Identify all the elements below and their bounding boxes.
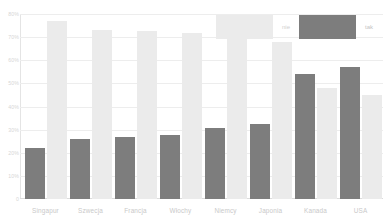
legend-swatch-nie-icon: [216, 15, 273, 39]
bar-group: [248, 14, 293, 199]
y-axis-tick-label: 30%: [1, 127, 19, 133]
x-axis: SingapurSzwecjaFrancjaWłochyNiemcyJaponi…: [20, 207, 383, 221]
bar-nie[interactable]: [182, 33, 202, 200]
legend: nie tak: [216, 15, 382, 39]
bar-tak[interactable]: [70, 139, 90, 199]
bar-tak[interactable]: [295, 74, 315, 199]
y-axis-tick-label: 0: [1, 196, 19, 202]
bar-nie[interactable]: [272, 42, 292, 199]
legend-label-nie: nie: [273, 24, 299, 30]
x-axis-tick-label: Niemcy: [203, 207, 248, 214]
bar-group: [113, 14, 158, 199]
y-axis-tick-label: 50%: [1, 80, 19, 86]
legend-label-tak: tak: [356, 24, 382, 30]
plot-area: [20, 14, 383, 199]
y-axis-tick-label: 20%: [1, 150, 19, 156]
y-axis-tick-label: 10%: [1, 173, 19, 179]
bar-chart: 80%70%60%50%40%30%20%10%0 nie tak Singap…: [0, 0, 384, 224]
bar-tak[interactable]: [115, 137, 135, 199]
legend-item-tak[interactable]: tak: [299, 15, 382, 39]
x-axis-tick-label: Szwecja: [68, 207, 113, 214]
bar-nie[interactable]: [317, 88, 337, 199]
y-axis-tick-label: 40%: [1, 104, 19, 110]
bar-tak[interactable]: [340, 67, 360, 199]
bar-tak[interactable]: [205, 128, 225, 199]
x-axis-tick-label: Francja: [113, 207, 158, 214]
bar-group: [23, 14, 68, 199]
x-axis-tick-label: Japonia: [248, 207, 293, 214]
bar-nie[interactable]: [137, 31, 157, 199]
bar-tak[interactable]: [160, 135, 180, 199]
bar-nie[interactable]: [362, 95, 382, 199]
x-axis-tick-label: USA: [338, 207, 383, 214]
bar-nie[interactable]: [227, 21, 247, 199]
bar-group: [158, 14, 203, 199]
x-axis-tick-label: Kanada: [293, 207, 338, 214]
y-axis: 80%70%60%50%40%30%20%10%0: [0, 0, 19, 224]
bar-nie[interactable]: [92, 30, 112, 199]
legend-item-nie[interactable]: nie: [216, 15, 299, 39]
bar-group: [338, 14, 383, 199]
y-axis-tick-label: 80%: [1, 11, 19, 17]
x-axis-tick-label: Włochy: [158, 207, 203, 214]
bar-group: [293, 14, 338, 199]
y-axis-tick-label: 60%: [1, 57, 19, 63]
bar-tak[interactable]: [250, 124, 270, 199]
x-axis-tick-label: Singapur: [23, 207, 68, 214]
bar-tak[interactable]: [25, 148, 45, 199]
legend-swatch-tak-icon: [299, 15, 356, 39]
bar-group: [203, 14, 248, 199]
bar-nie[interactable]: [47, 21, 67, 199]
bar-group: [68, 14, 113, 199]
y-axis-tick-label: 70%: [1, 34, 19, 40]
